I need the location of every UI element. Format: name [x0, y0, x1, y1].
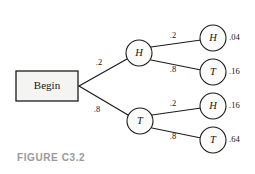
begin-node-label: Begin: [34, 79, 61, 91]
edge-label-tails-tails: .8: [170, 131, 176, 141]
outcome-probability-hh: .04: [229, 32, 240, 42]
edge-begin-to-heads: [79, 59, 127, 86]
edge-label-tails-heads: .2: [170, 98, 176, 108]
edge-tails-to-tails: [152, 128, 201, 138]
edge-label-begin-tails: .8: [94, 104, 100, 114]
figure-caption: FIGURE C3.2: [17, 152, 85, 163]
outcome-probability-ht: .16: [229, 66, 240, 76]
probability-tree-figure: Begin H T H T H T .2 .8 .2 .8 .2 .8 .04 …: [0, 0, 255, 174]
outcome-probability-tt: .64: [229, 134, 240, 144]
edge-label-heads-heads: .2: [170, 30, 176, 40]
node-leaf-th-label: H: [208, 100, 218, 111]
node-level1-heads-label: H: [134, 47, 144, 58]
edge-tails-to-heads: [152, 108, 201, 115]
edge-begin-to-tails: [79, 86, 128, 115]
edge-heads-to-heads: [151, 40, 201, 47]
node-leaf-hh-label: H: [208, 32, 218, 43]
outcome-probability-th: .16: [229, 100, 240, 110]
edge-label-heads-tails: .8: [170, 64, 176, 74]
edge-label-begin-heads: .2: [96, 57, 102, 67]
tree-diagram: Begin H T H T H T .2 .8 .2 .8 .2 .8 .04 …: [0, 0, 255, 174]
